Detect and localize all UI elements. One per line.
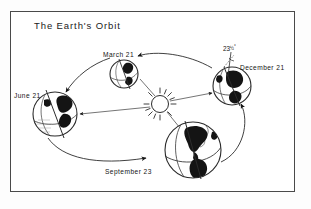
earth-globe-march bbox=[110, 59, 138, 89]
label-september-23: September 23 bbox=[105, 168, 152, 175]
ray-to-june bbox=[80, 107, 150, 114]
ray-to-march bbox=[140, 79, 155, 96]
earth-globe-december bbox=[213, 52, 252, 106]
ray-to-september bbox=[167, 112, 180, 128]
orbit-arc-bottom bbox=[48, 138, 146, 161]
earth-orbit-figure: The Earth's Orbit March 21 December 21 J… bbox=[0, 0, 311, 209]
axial-tilt-label: 23½° bbox=[223, 44, 236, 52]
orbit-arc-top-left bbox=[66, 58, 110, 92]
orbit-arc-top bbox=[138, 53, 212, 68]
sun-icon bbox=[144, 88, 176, 120]
orbit-arc-right bbox=[221, 104, 245, 162]
ray-to-december bbox=[170, 93, 212, 101]
page-title: The Earth's Orbit bbox=[34, 20, 121, 31]
label-december-21: December 21 bbox=[240, 64, 285, 71]
sunlight-rays bbox=[80, 79, 212, 128]
label-june-21: June 21 bbox=[14, 92, 41, 99]
label-march-21: March 21 bbox=[103, 51, 134, 58]
degree-symbol: ° bbox=[234, 44, 236, 49]
earth-globe-september bbox=[165, 121, 221, 179]
orbit-diagram bbox=[0, 0, 311, 209]
